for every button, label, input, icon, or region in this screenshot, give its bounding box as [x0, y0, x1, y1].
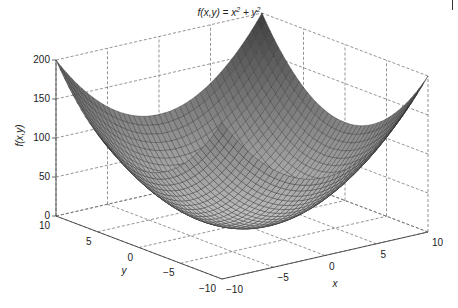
z-tick-label: 100: [33, 132, 50, 143]
y-tick-label: −5: [163, 267, 174, 278]
x-tick-label: 10: [432, 237, 443, 248]
y-tick-label: 10: [39, 220, 50, 231]
x-tick-label: 0: [329, 261, 335, 272]
x-axis-line: [222, 232, 428, 279]
x-tick-label: −5: [278, 272, 289, 283]
z-tick-label: 150: [33, 93, 50, 104]
y-axis-label: y: [122, 265, 127, 276]
z-axis-label: f(x,y): [14, 124, 25, 146]
z-tick-label: 50: [39, 171, 50, 182]
x-axis-label: x: [333, 278, 338, 289]
x-tick-label: 5: [381, 249, 387, 260]
surface-mesh: [56, 13, 428, 229]
y-tick-label: 0: [127, 252, 133, 263]
surface-plot: [0, 0, 458, 308]
y-tick-label: −10: [199, 283, 216, 294]
y-tick-label: 5: [86, 236, 92, 247]
y-axis-line: [56, 216, 222, 279]
x-tick-label: −10: [226, 284, 243, 295]
z-tick-label: 200: [33, 54, 50, 65]
